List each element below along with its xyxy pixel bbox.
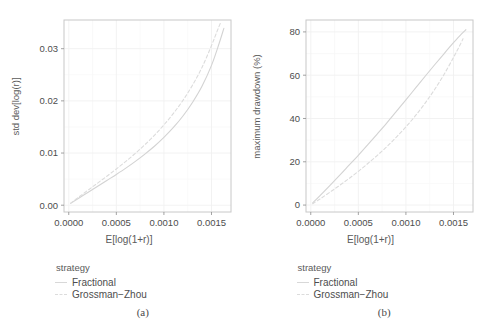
svg-text:0.0005: 0.0005: [102, 217, 131, 228]
legend-item-fractional[interactable]: Fractional: [296, 276, 476, 288]
svg-text:0.02: 0.02: [40, 95, 59, 106]
svg-text:0: 0: [294, 199, 299, 210]
panel-a-legend: strategy Fractional Grossman−Zhou: [54, 262, 234, 300]
legend-key-dashed-line-icon: [54, 289, 68, 299]
panel-a: std dev[log(r)] 0.00000.00050.00100.0015…: [0, 0, 242, 331]
svg-text:0.00: 0.00: [40, 200, 59, 211]
svg-text:20: 20: [289, 156, 300, 167]
svg-text:60: 60: [289, 70, 300, 81]
figure-container: std dev[log(r)] 0.00000.00050.00100.0015…: [0, 0, 483, 331]
legend-item-grossman-zhou[interactable]: Grossman−Zhou: [54, 288, 234, 300]
svg-text:40: 40: [289, 113, 300, 124]
panel-b-legend: strategy Fractional Grossman−Zhou: [296, 262, 476, 300]
panel-a-legend-title: strategy: [54, 262, 234, 273]
svg-text:0.01: 0.01: [40, 147, 59, 158]
panel-b-legend-title: strategy: [296, 262, 476, 273]
svg-text:0.0010: 0.0010: [149, 217, 178, 228]
svg-text:80: 80: [289, 26, 300, 37]
legend-key-solid-line-icon: [54, 277, 68, 287]
legend-label-fractional: Fractional: [68, 277, 116, 288]
svg-text:0.0000: 0.0000: [296, 217, 325, 228]
legend-item-grossman-zhou[interactable]: Grossman−Zhou: [296, 288, 476, 300]
legend-label-grossman-zhou: Grossman−Zhou: [68, 289, 147, 300]
svg-text:0.0005: 0.0005: [343, 217, 372, 228]
svg-text:0.03: 0.03: [40, 43, 59, 54]
legend-key-dashed-line-icon: [296, 289, 310, 299]
panel-b: maximum drawdown (%) 0.00000.00050.00100…: [242, 0, 483, 331]
svg-text:0.0010: 0.0010: [391, 217, 420, 228]
legend-label-grossman-zhou: Grossman−Zhou: [310, 289, 389, 300]
panel-a-plot: 0.00000.00050.00100.00150.000.010.020.03: [0, 0, 242, 260]
legend-item-fractional[interactable]: Fractional: [54, 276, 234, 288]
panel-a-caption: (a): [0, 306, 242, 318]
legend-label-fractional: Fractional: [310, 277, 358, 288]
svg-text:0.0015: 0.0015: [197, 217, 226, 228]
legend-key-solid-line-icon: [296, 277, 310, 287]
panel-a-x-axis-title: E[log(1+r)]: [24, 234, 234, 245]
panel-b-x-axis-title: E[log(1+r)]: [266, 234, 476, 245]
svg-text:0.0000: 0.0000: [54, 217, 83, 228]
svg-text:0.0015: 0.0015: [438, 217, 467, 228]
panel-b-caption: (b): [242, 306, 483, 318]
panel-b-plot: 0.00000.00050.00100.0015020406080: [242, 0, 483, 260]
